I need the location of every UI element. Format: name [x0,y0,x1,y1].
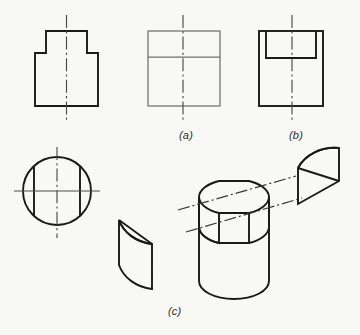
removed-segment-left [119,220,152,289]
figure-root: .ink { fill:none; stroke:#1a1a1a; stroke… [0,0,360,335]
view-a-outer-rectangle [148,31,220,106]
pictorial-cut-cylinder [178,176,302,299]
cylinder-lower-cut-arc [199,227,219,243]
segment-right-outline [298,148,339,204]
figure-label-b: (b) [289,129,303,141]
top-view-circle-with-chords [14,147,100,238]
figure-label-c: (c) [168,305,181,317]
figure-label-a: (a) [179,129,193,141]
view-b-inner-recess [266,31,316,58]
removed-segment-right [298,148,339,204]
drawing-canvas: .ink { fill:none; stroke:#1a1a1a; stroke… [0,0,360,335]
segment-right-chord-edge [298,168,339,181]
side-view-option-b [259,15,323,122]
front-view-stepped-profile [35,15,98,122]
cylinder-top-face [199,181,269,213]
side-view-option-a [148,15,220,122]
view-b-outer-rectangle [259,31,323,106]
segment-left-chord-edge [119,220,152,244]
segment-right-top-arc [298,148,339,168]
